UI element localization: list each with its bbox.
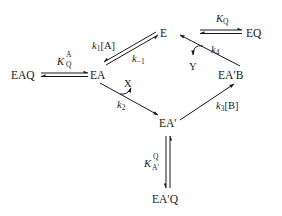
node-EAprime: EA′ bbox=[159, 117, 177, 129]
label-KApQ-sup: Q bbox=[153, 152, 159, 161]
label-KApQ-sub: A′ bbox=[152, 163, 159, 172]
node-EAprimeB: EA′B bbox=[218, 69, 244, 81]
node-E: E bbox=[160, 27, 167, 39]
node-EA: EA bbox=[90, 69, 106, 81]
label-k2: k2 bbox=[117, 99, 126, 112]
label-k3B: k3[B] bbox=[216, 100, 238, 113]
label-KQA-sub: Q bbox=[66, 60, 72, 69]
label-kminus1: k−1 bbox=[132, 53, 145, 66]
label-KQA: K bbox=[56, 56, 65, 67]
node-EAprimeQ: EA′Q bbox=[152, 193, 179, 205]
label-k4: k4 bbox=[211, 44, 220, 57]
node-EQ: EQ bbox=[246, 27, 262, 39]
label-k1A: k1[A] bbox=[92, 40, 115, 53]
node-EAQ: EAQ bbox=[11, 69, 35, 81]
label-KQ: KQ bbox=[215, 13, 229, 26]
enzyme-kinetic-scheme: E EQ EAQ EA EA′B EA′ EA′Q KQ K A Q k1[A]… bbox=[0, 0, 282, 216]
label-KApQ: K bbox=[143, 158, 152, 169]
label-KQA-sup: A bbox=[66, 50, 72, 59]
product-X: X bbox=[124, 78, 132, 89]
product-Y: Y bbox=[189, 61, 197, 72]
arrow-release-Y bbox=[193, 46, 203, 55]
